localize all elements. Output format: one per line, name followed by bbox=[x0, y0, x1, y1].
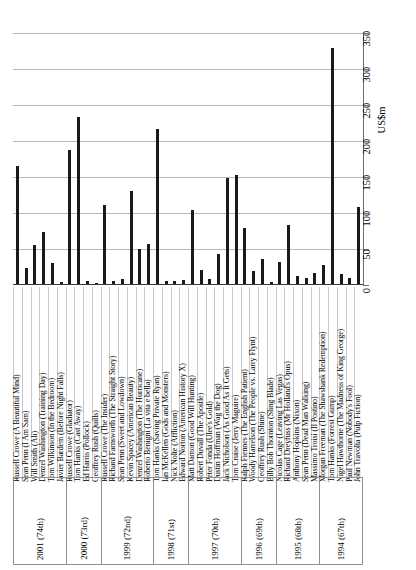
category-label-text: Woody Harrelson (The People vs. Larry Fl… bbox=[248, 337, 257, 482]
value-tick-label: 100 bbox=[361, 211, 372, 227]
value-tick-label: 200 bbox=[361, 139, 372, 155]
bar bbox=[252, 271, 255, 285]
bar bbox=[51, 263, 54, 285]
bar bbox=[77, 117, 80, 285]
category-label-text: Denzel Washington (Training Day) bbox=[38, 373, 47, 482]
category-label-text: Tom Cruise (Jerry Maguire) bbox=[231, 395, 240, 482]
year-group-cell: 1997 (70th) bbox=[188, 477, 241, 565]
gridline-350 bbox=[13, 33, 363, 34]
category-label-text: John Travolta (Pulp Fiction) bbox=[353, 394, 362, 482]
category-label-text: Jack Nicholson (As Good As It Gets) bbox=[222, 366, 231, 482]
year-group-cell: 2001 (74th) bbox=[13, 477, 66, 565]
year-group-cell: 1998 (71st) bbox=[153, 477, 188, 565]
bar bbox=[235, 175, 238, 285]
year-group-label: 1995 (68th) bbox=[293, 518, 303, 560]
category-label-text: Sean Penn (Sweet and Lowdown) bbox=[117, 376, 126, 482]
category-label-text: Tom Hanks (Cast Away) bbox=[73, 406, 82, 482]
year-group-label: 1994 (67th) bbox=[336, 518, 346, 560]
year-group-label: 2001 (74th) bbox=[35, 518, 45, 560]
bar bbox=[156, 129, 159, 285]
category-labels: Russell Crowe (A Beautiful Mind)Sean Pen… bbox=[13, 287, 363, 477]
gridline-50 bbox=[13, 249, 363, 250]
bar bbox=[33, 245, 36, 285]
value-tick-label: 50 bbox=[361, 249, 372, 260]
gridline-150 bbox=[13, 177, 363, 178]
category-label-text: Ed Harris (Pollock) bbox=[82, 421, 91, 482]
year-group-label: 1997 (70th) bbox=[210, 518, 220, 560]
bar bbox=[16, 166, 19, 285]
year-group-labels: 2001 (74th)2000 (73rd)1999 (72nd)1998 (7… bbox=[13, 477, 363, 565]
year-group-label: 1998 (71st) bbox=[166, 519, 176, 560]
bar bbox=[243, 228, 246, 285]
year-group-label: 1999 (72nd) bbox=[122, 516, 132, 560]
category-label-text: Morgan Freeman (The Shawshank Redemption… bbox=[318, 332, 327, 482]
category-label-text: Robert Duvall (The Apostle) bbox=[196, 393, 205, 482]
value-axis: 050100150200250300350 bbox=[363, 26, 375, 292]
bar bbox=[217, 254, 220, 285]
category-label-text: Richard Farnsworth (The Straight Story) bbox=[108, 356, 117, 482]
year-group-cell: 1996 (69th) bbox=[241, 477, 276, 565]
bar bbox=[25, 268, 28, 285]
bar bbox=[42, 232, 45, 285]
bar bbox=[287, 225, 290, 285]
bar bbox=[226, 178, 229, 285]
year-group-cell: 1995 (68th) bbox=[276, 477, 320, 565]
bar bbox=[200, 270, 203, 285]
category-label-text: Nigel Hawthorne (The Madness of King Geo… bbox=[336, 329, 345, 482]
value-tick-label: 250 bbox=[361, 103, 372, 119]
bar bbox=[138, 249, 141, 285]
plot-area bbox=[13, 33, 363, 285]
gridline-250 bbox=[13, 105, 363, 106]
gridline-200 bbox=[13, 141, 363, 142]
gridline-300 bbox=[13, 69, 363, 70]
year-group-label: 2000 (73rd) bbox=[79, 517, 89, 560]
category-label-text: Kevin Spacey (American Beauty) bbox=[126, 377, 135, 482]
value-tick-label: 350 bbox=[361, 31, 372, 47]
year-group-cell: 1999 (72nd) bbox=[101, 477, 154, 565]
value-tick-label: 300 bbox=[361, 67, 372, 83]
category-label-text: Tom Hanks (Saving Private Ryan) bbox=[152, 375, 161, 482]
bar bbox=[103, 205, 106, 285]
category-label-text: Javier Bardem (Before Night Falls) bbox=[56, 372, 65, 482]
bar bbox=[331, 48, 334, 285]
bar bbox=[322, 265, 325, 285]
value-axis-unit-label: US$m bbox=[376, 107, 387, 134]
category-label-text: Roberto Benigni (La vita e bella) bbox=[143, 379, 152, 482]
category-label-cell: John Travolta (Pulp Fiction) bbox=[354, 287, 363, 477]
category-label-text: Anthony Hopkins (Nixon) bbox=[292, 400, 301, 482]
category-label-text: Sean Penn (I Am Sam) bbox=[21, 411, 30, 482]
category-label-text: Matt Damon (Good Will Hunting) bbox=[187, 375, 196, 482]
value-tick-label: 150 bbox=[361, 175, 372, 191]
category-label-text: Ian McKellen (Gods and Monsters) bbox=[161, 371, 170, 482]
bar bbox=[191, 210, 194, 285]
category-label-text: Russell Crowe (A Beautiful Mind) bbox=[12, 375, 21, 482]
bar bbox=[147, 244, 150, 285]
category-label-text: Geoffrey Rush (Quills) bbox=[91, 410, 100, 482]
value-tick bbox=[363, 285, 369, 286]
gridline-100 bbox=[13, 213, 363, 214]
category-label-text: Billy Bob Thornton (Sling Blade) bbox=[266, 377, 275, 482]
category-label-text: Geoffrey Rush (Shine) bbox=[257, 411, 266, 482]
category-label-text: Sean Penn (Dead Man Walking) bbox=[301, 382, 310, 482]
year-group-cell: 1994 (67th) bbox=[319, 477, 363, 565]
bar bbox=[261, 259, 264, 285]
category-label-text: Tom Wilkinson (In the Bedroom) bbox=[47, 378, 56, 482]
bar bbox=[278, 262, 281, 285]
category-label-text: Edward Norton (American History X) bbox=[178, 363, 187, 482]
category-label-text: Dustin Hoffman (Wag the Dog) bbox=[213, 383, 222, 482]
category-label-text: Tom Hanks (Forrest Gump) bbox=[327, 395, 336, 482]
baseline-axis bbox=[13, 284, 363, 285]
bar bbox=[357, 207, 360, 285]
bar bbox=[68, 150, 71, 285]
year-group-label: 1996 (69th) bbox=[254, 518, 264, 560]
oscar-best-actor-boxoffice-chart: 050100150200250300350 US$m Russell Crowe… bbox=[0, 0, 416, 570]
year-group-cell: 2000 (73rd) bbox=[66, 477, 101, 565]
category-label-text: Richard Dreyfuss (Mr Holland's Opus) bbox=[283, 361, 292, 482]
bar bbox=[130, 191, 133, 285]
